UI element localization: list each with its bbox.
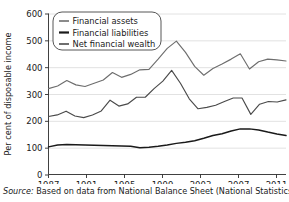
source-note: Source: Based on data from National Bala… <box>3 186 287 197</box>
legend-label-financial-liabilities: Financial liabilities <box>73 28 149 38</box>
figure-container: 0100200300400500600 19871991199519992003… <box>0 0 289 202</box>
y-tick-label-0: 0 <box>37 170 42 180</box>
series-line-net-financial-wealth <box>49 70 287 117</box>
x-tick-label-2011: 2011 <box>266 180 288 185</box>
x-tick-label-2003: 2003 <box>190 180 212 185</box>
line-chart-svg: 0100200300400500600 19871991199519992003… <box>0 0 289 184</box>
series-line-financial-liabilities <box>49 129 287 148</box>
chart-plot-area: 0100200300400500600 19871991199519992003… <box>0 0 289 184</box>
y-tick-label-100: 100 <box>26 143 42 153</box>
y-tick-label-400: 400 <box>26 63 42 73</box>
y-axis-ticks: 0100200300400500600 <box>26 9 48 180</box>
y-tick-label-300: 300 <box>26 90 42 100</box>
source-text: Based on data from National Balance Shee… <box>36 186 289 196</box>
chart-legend: Financial assets Financial liabilities N… <box>53 12 161 50</box>
x-tick-label-2007: 2007 <box>228 180 250 185</box>
y-axis-label: Per cent of disposable income <box>3 32 13 155</box>
x-tick-label-1995: 1995 <box>114 180 136 185</box>
source-prefix: Source: <box>3 186 34 196</box>
x-tick-label-1991: 1991 <box>76 180 98 185</box>
legend-label-financial-assets: Financial assets <box>73 16 138 26</box>
x-tick-label-1987: 1987 <box>38 180 60 185</box>
x-tick-label-1999: 1999 <box>152 180 174 185</box>
y-tick-label-600: 600 <box>26 9 42 19</box>
y-tick-label-200: 200 <box>26 116 42 126</box>
x-axis-ticks: 1987199119951999200320072011 <box>38 175 288 185</box>
y-tick-label-500: 500 <box>26 36 42 46</box>
legend-label-net-financial-wealth: Net financial wealth <box>73 39 156 49</box>
